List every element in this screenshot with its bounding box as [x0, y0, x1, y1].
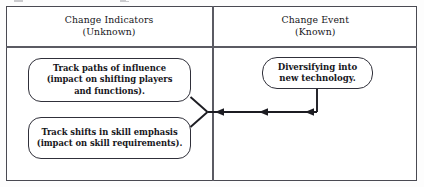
scan-artifact	[14, 0, 23, 2]
column-header-line1: Change Event	[281, 14, 349, 26]
node-line: Track paths of influence	[53, 63, 166, 74]
column-header-line1: Change Indicators	[65, 14, 154, 26]
node-line: and functions).	[74, 86, 145, 97]
column-header-change-indicators: Change Indicators (Unknown)	[6, 6, 212, 46]
scan-artifact	[126, 1, 129, 2]
node-line: Diversifying into	[278, 62, 357, 73]
column-header-change-event: Change Event (Known)	[214, 6, 418, 46]
node-track-shifts-in-skill-emphasis: Track shifts in skill emphasis (impact o…	[28, 117, 191, 159]
change-diagram: Change Indicators (Unknown) Change Event…	[0, 0, 424, 187]
node-line: (impact on skill requirements).	[37, 138, 183, 149]
column-header-line2: (Known)	[295, 26, 335, 38]
node-line: (impact on shifting players	[47, 74, 173, 85]
node-diversifying-into-new-technology: Diversifying into new technology.	[262, 57, 373, 89]
node-track-paths-of-influence: Track paths of influence (impact on shif…	[28, 58, 191, 102]
column-header-line2: (Unknown)	[82, 26, 135, 38]
node-line: new technology.	[279, 73, 355, 84]
node-line: Track shifts in skill emphasis	[41, 127, 177, 138]
